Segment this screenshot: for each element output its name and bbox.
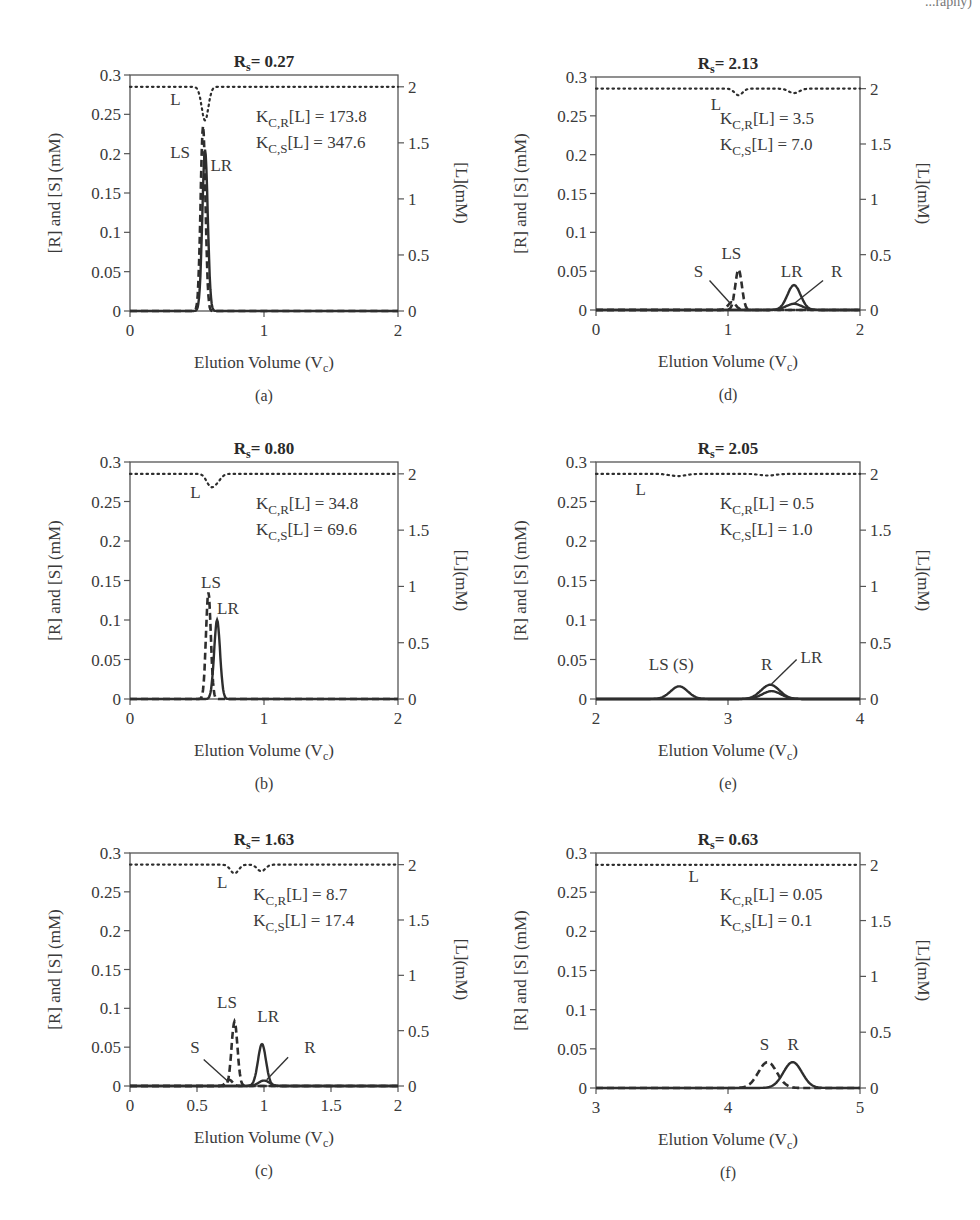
y-tick-label: 0.15 [557, 185, 587, 204]
series-ls [130, 592, 398, 699]
y-tick-label: 0.05 [91, 263, 121, 282]
x-tick-label: 3 [724, 709, 733, 728]
series-l [596, 89, 860, 96]
y-axis-title: [R] and [S] (mM) [45, 909, 64, 1029]
x-tick-label: 1 [260, 709, 269, 728]
series-lr [130, 150, 398, 311]
y-tick-label: 0 [579, 301, 588, 320]
y2-tick-label: 1 [870, 967, 879, 986]
y-tick-label: 0.1 [566, 223, 587, 242]
chart-panel-f: 00.050.10.150.20.250.300.511.52345Rs= 0.… [511, 830, 933, 1182]
kcr-annotation: KC,R[L] = 0.05 [720, 885, 822, 908]
y-tick-label: 0.1 [100, 999, 121, 1018]
panel-title: Rs= 0.63 [698, 830, 759, 852]
series-label: LS (S) [649, 655, 694, 674]
series-l [596, 474, 860, 476]
x-tick-label: 1 [260, 1096, 269, 1115]
y-tick-label: 0.2 [566, 922, 587, 941]
series-r [596, 1062, 860, 1088]
y-axis-title: [R] and [S] (mM) [45, 133, 64, 253]
series-label: R [787, 1035, 799, 1054]
series-label: S [190, 1038, 199, 1057]
x-tick-label: 4 [724, 1098, 733, 1117]
figure: ...raphy) 00.050.10.150.20.250.300.511.5… [0, 0, 980, 1220]
series-lr [130, 620, 398, 699]
kcr-annotation: KC,R[L] = 34.8 [256, 494, 358, 517]
y-tick-label: 0 [113, 690, 122, 709]
y-tick-label: 0 [113, 1077, 122, 1096]
y-tick-label: 0.05 [557, 1040, 587, 1059]
chart-panel-c: 00.050.10.150.20.250.300.511.5200.511.52… [45, 830, 471, 1180]
panel-caption: (f) [720, 1164, 736, 1182]
y-tick-label: 0.1 [566, 1001, 587, 1020]
x-tick-label: 0 [126, 321, 135, 340]
y-tick-label: 0.05 [557, 651, 587, 670]
y-tick-label: 0.2 [100, 532, 121, 551]
y2-axis-title: [L](mM) [452, 550, 471, 611]
y-tick-label: 0.2 [566, 532, 587, 551]
y2-tick-label: 1 [408, 966, 417, 985]
panel-title: Rs= 2.13 [698, 54, 759, 76]
kcs-annotation: KC,S[L] = 69.6 [256, 520, 357, 543]
x-tick-label: 1.5 [320, 1096, 341, 1115]
y2-axis-title: [L](mM) [452, 939, 471, 1000]
y2-tick-label: 2 [408, 78, 417, 97]
x-tick-label: 1 [724, 320, 733, 339]
y2-tick-label: 0 [870, 301, 879, 320]
y-tick-label: 0.3 [100, 453, 121, 472]
kcs-annotation: KC,S[L] = 7.0 [720, 135, 812, 158]
panel-caption: (a) [255, 387, 273, 405]
x-axis-title: Elution Volume (Vc) [658, 352, 798, 374]
series-label: S [694, 262, 703, 281]
chart-panel-a: 00.050.10.150.20.250.300.511.52012Rs= 0.… [45, 52, 471, 405]
leader-line [204, 1060, 228, 1082]
leader-line [772, 660, 797, 684]
panel-caption: (e) [719, 775, 737, 793]
series-label: LS [217, 993, 237, 1012]
series-lr [596, 691, 860, 699]
y2-tick-label: 2 [408, 856, 417, 875]
y-tick-label: 0.3 [566, 844, 587, 863]
y-tick-label: 0.05 [557, 262, 587, 281]
series-label: LR [257, 1007, 279, 1026]
y-tick-label: 0.2 [100, 145, 121, 164]
y2-tick-label: 1.5 [408, 521, 429, 540]
y2-tick-label: 1 [870, 190, 879, 209]
y2-tick-label: 0.5 [408, 246, 429, 265]
y-tick-label: 0.1 [100, 611, 121, 630]
x-tick-label: 2 [856, 320, 865, 339]
series-r [596, 685, 860, 699]
y-tick-label: 0.25 [91, 493, 121, 512]
y2-tick-label: 0 [408, 302, 417, 321]
y-tick-label: 0.15 [91, 184, 121, 203]
series-label: LS [201, 573, 221, 592]
y-tick-label: 0.2 [100, 922, 121, 941]
x-tick-label: 3 [592, 1098, 601, 1117]
panel-title: Rs= 1.63 [234, 830, 295, 852]
x-tick-label: 5 [856, 1098, 865, 1117]
y2-tick-label: 0.5 [408, 634, 429, 653]
y-axis-title: [R] and [S] (mM) [45, 520, 64, 640]
x-tick-label: 0.5 [186, 1096, 207, 1115]
y2-tick-label: 0 [408, 1077, 417, 1096]
chart-panel-e: 00.050.10.150.20.250.300.511.52234Rs= 2.… [511, 439, 933, 793]
y2-tick-label: 1.5 [870, 521, 891, 540]
x-tick-label: 2 [394, 709, 403, 728]
kcs-annotation: KC,S[L] = 17.4 [253, 911, 354, 934]
series-label: R [304, 1038, 316, 1057]
y-tick-label: 0.1 [566, 611, 587, 630]
x-tick-label: 2 [394, 1096, 403, 1115]
series-label: L [170, 90, 180, 109]
y-tick-label: 0.3 [100, 844, 121, 863]
kcr-annotation: KC,R[L] = 8.7 [253, 885, 347, 908]
kcr-annotation: KC,R[L] = 173.8 [256, 107, 367, 130]
y2-axis-title: [L](mM) [914, 550, 933, 611]
y2-axis-title: [L](mM) [914, 163, 933, 224]
panel-title: Rs= 0.27 [234, 52, 295, 74]
y2-tick-label: 2 [408, 465, 417, 484]
y2-tick-label: 1.5 [408, 134, 429, 153]
y-tick-label: 0 [113, 302, 122, 321]
x-tick-label: 2 [394, 321, 403, 340]
series-s [596, 1062, 860, 1088]
y-tick-label: 0.25 [557, 493, 587, 512]
